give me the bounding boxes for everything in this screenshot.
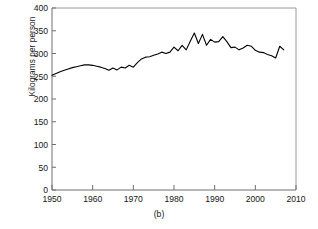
y-tick-label: 400	[34, 4, 48, 13]
chart-figure: Kilograms per person 400 350 300 250 200…	[0, 0, 318, 229]
y-tick-label: 100	[34, 141, 48, 150]
y-tick-label: 300	[34, 50, 48, 59]
data-series-line	[52, 33, 284, 75]
x-tick-label: 2010	[278, 195, 314, 204]
axes-frame	[52, 8, 296, 190]
y-tick-marks	[52, 8, 56, 190]
y-tick-label: 200	[34, 95, 48, 104]
x-tick-label: 2000	[237, 195, 273, 204]
x-tick-label: 1990	[197, 195, 233, 204]
y-tick-label: 150	[34, 118, 48, 127]
x-tick-label: 1970	[115, 195, 151, 204]
figure-caption: (b)	[0, 209, 318, 219]
x-tick-marks	[52, 185, 296, 190]
y-tick-label: 50	[38, 164, 48, 173]
x-tick-label: 1950	[34, 195, 70, 204]
x-tick-label: 1960	[75, 195, 111, 204]
y-tick-label: 250	[34, 73, 48, 82]
x-tick-label: 1980	[156, 195, 192, 204]
y-tick-label: 350	[34, 27, 48, 36]
